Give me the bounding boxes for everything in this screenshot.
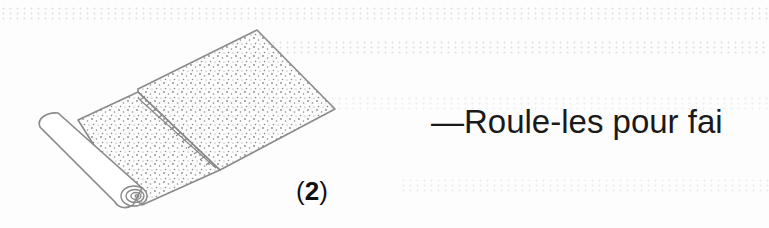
rolled-rug-illustration <box>0 0 400 228</box>
instruction-text: —Roule-les pour fai <box>431 104 723 140</box>
step-paren-open: ( <box>296 176 305 206</box>
scanned-page: (2) —Roule-les pour fai <box>0 0 769 228</box>
step-paren-close: ) <box>319 176 328 206</box>
step-number: 2 <box>305 176 319 206</box>
step-number-label: (2) <box>296 178 328 204</box>
bleed-through-line <box>400 178 769 192</box>
